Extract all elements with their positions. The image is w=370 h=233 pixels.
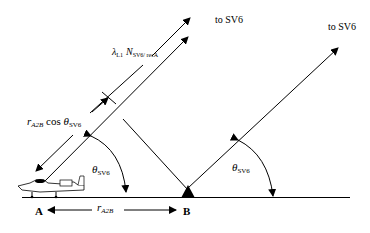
ground-station-icon — [181, 185, 195, 198]
parallel-arrow-line — [152, 18, 190, 56]
wavelength-label: λL1NSV6/ recA — [111, 46, 159, 58]
line-of-sight-b — [188, 48, 338, 188]
line-of-sight-a — [40, 37, 188, 186]
wavelength-segment-line — [90, 65, 143, 113]
baseline-label: rA2B — [97, 201, 114, 215]
projection-label: rA2B cos θSV6 — [27, 115, 82, 129]
to-sv6-label-right: to SV6 — [328, 21, 356, 32]
point-b-label: B — [183, 205, 191, 217]
tick-mark — [102, 92, 116, 104]
aircraft-icon — [18, 176, 84, 198]
perpendicular-line — [123, 119, 188, 190]
to-sv6-label-left: to SV6 — [215, 14, 243, 25]
geometry-diagram: to SV6 to SV6 λL1NSV6/ recA rA2B cos θSV… — [0, 0, 370, 233]
theta-label-b: θSV6 — [232, 161, 250, 175]
point-a-label: A — [35, 205, 43, 217]
wavelength-arrow — [92, 98, 108, 112]
projection-arrow-line — [36, 135, 73, 171]
theta-label-a: θSV6 — [92, 163, 110, 177]
